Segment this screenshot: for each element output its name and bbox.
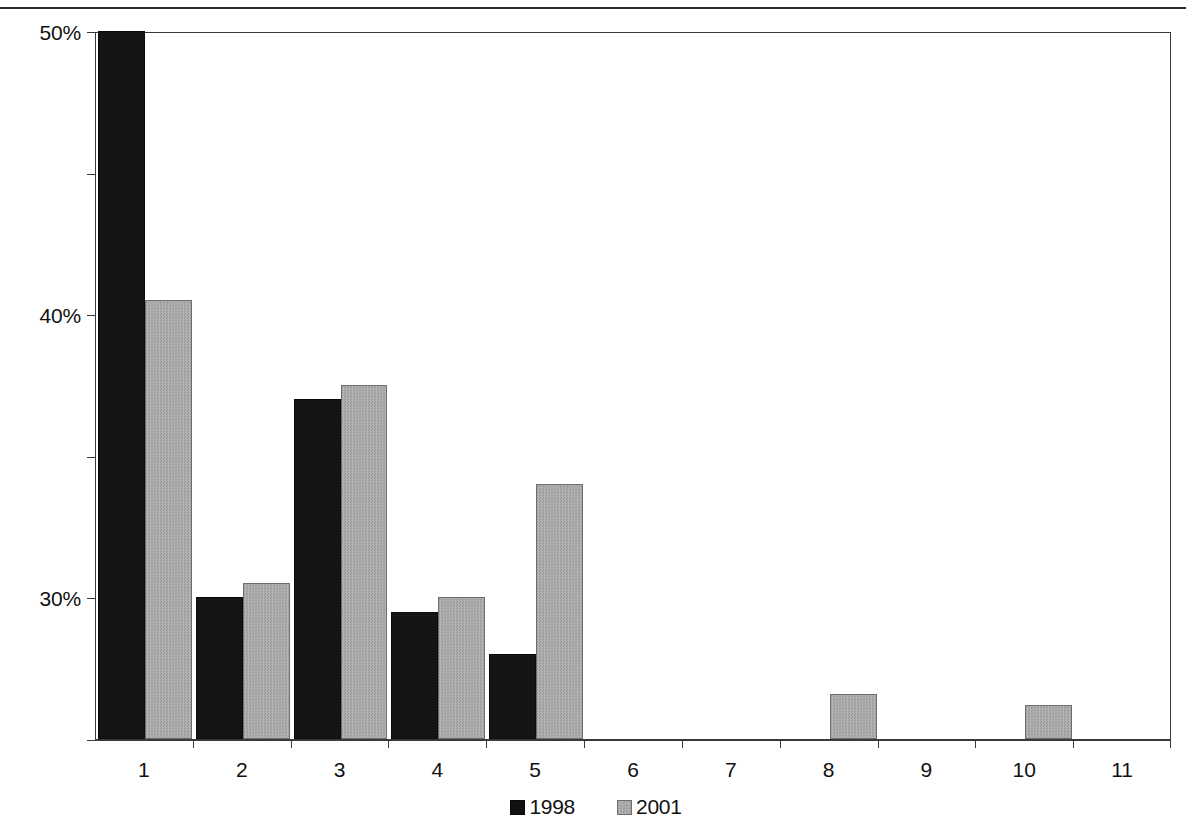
x-axis-tick-label: 5 (529, 758, 541, 782)
y-axis-tick: 50% (87, 32, 96, 33)
x-axis-tick-label: 10 (1013, 758, 1036, 782)
x-axis-tick-label: 7 (725, 758, 737, 782)
bar-1998-5 (489, 654, 536, 739)
bar-2001-3 (341, 385, 388, 739)
x-axis-tick (1073, 740, 1074, 748)
x-axis-tick (486, 740, 487, 748)
bar-1998-1 (98, 31, 145, 739)
bar-1998-4 (391, 612, 438, 739)
legend-item-label: 2001 (636, 795, 682, 819)
bar-1998-3 (294, 399, 341, 739)
bar-2001-5 (536, 484, 583, 739)
x-axis: 1234567891011 (95, 740, 1171, 800)
bar-chart: 0%10%20%30%40%50% 1234567891011 19982001 (0, 0, 1192, 837)
x-axis-tick (193, 740, 194, 748)
x-axis-tick (878, 740, 879, 748)
legend-swatch-icon (510, 800, 525, 815)
x-axis-tick-label: 11 (1111, 758, 1133, 782)
bar-2001-10 (1025, 705, 1072, 739)
bar-1998-2 (196, 597, 243, 739)
bar-2001-2 (243, 583, 290, 739)
y-axis-tick: 20% (87, 457, 96, 458)
legend-item-1998[interactable]: 1998 (510, 795, 575, 819)
legend-item-2001[interactable]: 2001 (617, 795, 682, 819)
legend-swatch-icon (617, 800, 632, 815)
y-axis-tick: 40% (87, 174, 96, 175)
x-axis-line (95, 740, 1171, 741)
x-axis-tick-label: 4 (432, 758, 444, 782)
x-axis-tick (388, 740, 389, 748)
x-axis-tick (584, 740, 585, 748)
y-axis-tick: 30% (87, 315, 96, 316)
x-axis-tick (291, 740, 292, 748)
x-axis-tick (682, 740, 683, 748)
chart-legend: 19982001 (0, 795, 1192, 819)
plot-area (95, 32, 1171, 740)
y-axis: 0%10%20%30%40%50% (80, 32, 96, 741)
x-axis-tick-label: 3 (334, 758, 346, 782)
x-axis-tick (780, 740, 781, 748)
x-axis-tick-label: 8 (823, 758, 835, 782)
bar-2001-4 (438, 597, 485, 739)
y-axis-tick: 10% (87, 598, 96, 599)
y-axis-tick-label: 30% (40, 587, 81, 611)
x-axis-tick-label: 6 (627, 758, 639, 782)
x-axis-tick-label: 9 (921, 758, 933, 782)
x-axis-tick (1170, 740, 1171, 748)
legend-item-label: 1998 (529, 795, 575, 819)
bar-group-container (96, 33, 1170, 739)
y-axis-tick-label: 40% (40, 304, 81, 328)
bar-2001-1 (145, 300, 192, 739)
x-axis-tick-label: 2 (236, 758, 248, 782)
y-axis-tick-label: 50% (40, 21, 81, 45)
x-axis-tick-label: 1 (138, 758, 150, 782)
bar-2001-8 (830, 694, 877, 739)
x-axis-tick (975, 740, 976, 748)
figure: 0%10%20%30%40%50% 1234567891011 19982001 (0, 0, 1192, 837)
